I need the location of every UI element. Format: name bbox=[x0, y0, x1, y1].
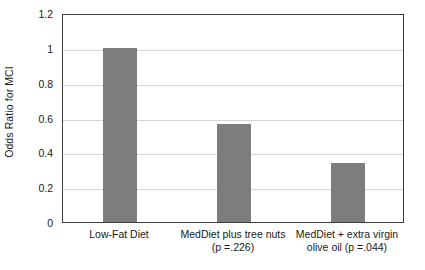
x-axis-tick-label-line: (p =.226) bbox=[180, 241, 285, 254]
y-axis-tick-label: 1.2 bbox=[38, 8, 53, 20]
x-axis-tick-label: MedDiet + extra virginolive oil (p =.044… bbox=[296, 228, 398, 253]
y-axis-tick-label: 0 bbox=[47, 217, 53, 229]
bar bbox=[103, 48, 137, 222]
bar-chart: Odds Ratio for MCI 00.20.40.60.811.2 Low… bbox=[0, 0, 425, 270]
x-axis-tick-label-line: Low-Fat Diet bbox=[89, 228, 149, 241]
y-axis-tick-label: 0.2 bbox=[38, 182, 53, 194]
y-axis-tick-label: 0.6 bbox=[38, 113, 53, 125]
y-axis-tick-label: 1 bbox=[47, 43, 53, 55]
y-axis-title-text: Odds Ratio for MCI bbox=[3, 66, 15, 158]
y-axis-tick-label: 0.4 bbox=[38, 147, 53, 159]
y-axis-tick-label: 0.8 bbox=[38, 78, 53, 90]
bar bbox=[331, 163, 365, 222]
x-axis-tick-label: MedDiet plus tree nuts(p =.226) bbox=[180, 228, 285, 253]
x-axis-tick-label-line: MedDiet plus tree nuts bbox=[180, 228, 285, 241]
x-axis-tick-label-line: MedDiet + extra virgin bbox=[296, 228, 398, 241]
y-axis-title: Odds Ratio for MCI bbox=[0, 0, 18, 223]
x-axis-tick-label: Low-Fat Diet bbox=[89, 228, 149, 241]
y-axis-tick-labels: 00.20.40.60.811.2 bbox=[18, 14, 58, 223]
plot-area bbox=[62, 14, 404, 223]
x-axis-tick-label-line: olive oil (p =.044) bbox=[296, 241, 398, 254]
x-axis-tick-labels: Low-Fat DietMedDiet plus tree nuts(p =.2… bbox=[62, 228, 404, 268]
bars-group bbox=[63, 15, 403, 222]
bar bbox=[217, 124, 251, 222]
